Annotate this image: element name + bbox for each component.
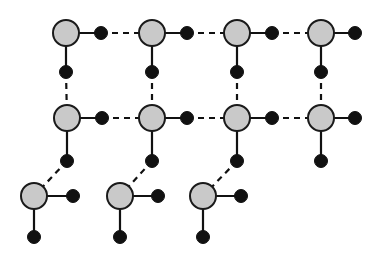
large-node-row3-col3[interactable] <box>190 183 216 209</box>
diagram-canvas <box>0 0 375 258</box>
small-node-row1-col4-down[interactable] <box>315 66 328 79</box>
small-node-row2-col3-down[interactable] <box>231 155 244 168</box>
large-node-row3-col2[interactable] <box>107 183 133 209</box>
small-node-row1-col1-down[interactable] <box>60 66 73 79</box>
small-node-row1-col2-down[interactable] <box>146 66 159 79</box>
small-node-row3-col1-down[interactable] <box>28 231 41 244</box>
small-node-row3-col2-down[interactable] <box>114 231 127 244</box>
large-node-row1-col1[interactable] <box>53 20 79 46</box>
small-node-row3-col1-right[interactable] <box>67 190 80 203</box>
small-node-row1-col3-right[interactable] <box>266 27 279 40</box>
small-node-row2-col2-down[interactable] <box>146 155 159 168</box>
small-node-row1-col1-right[interactable] <box>95 27 108 40</box>
large-node-row1-col2[interactable] <box>139 20 165 46</box>
small-node-row1-col3-down[interactable] <box>231 66 244 79</box>
large-node-row2-col4[interactable] <box>308 105 334 131</box>
small-node-row1-col2-right[interactable] <box>181 27 194 40</box>
small-node-row2-col1-down[interactable] <box>61 155 74 168</box>
small-node-row3-col3-down[interactable] <box>197 231 210 244</box>
large-node-row2-col1[interactable] <box>54 105 80 131</box>
small-node-row2-col4-right[interactable] <box>349 112 362 125</box>
small-node-row3-col3-right[interactable] <box>235 190 248 203</box>
small-node-row1-col4-right[interactable] <box>349 27 362 40</box>
small-node-row2-col3-right[interactable] <box>266 112 279 125</box>
large-node-row1-col4[interactable] <box>308 20 334 46</box>
large-node-row3-col1[interactable] <box>21 183 47 209</box>
small-node-row3-col2-right[interactable] <box>152 190 165 203</box>
large-node-row1-col3[interactable] <box>224 20 250 46</box>
large-node-row2-col3[interactable] <box>224 105 250 131</box>
large-node-row2-col2[interactable] <box>139 105 165 131</box>
small-node-row2-col2-right[interactable] <box>181 112 194 125</box>
lattice-diagram <box>0 0 375 258</box>
small-node-row2-col1-right[interactable] <box>96 112 109 125</box>
small-node-row2-col4-down[interactable] <box>315 155 328 168</box>
